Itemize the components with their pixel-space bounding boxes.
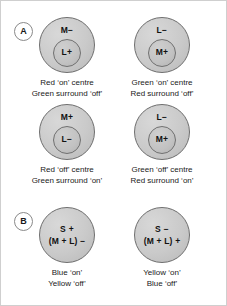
field-region-b2	[134, 207, 190, 263]
bottom-label-b2: (M + L) +	[114, 236, 210, 246]
caption-a2: Green ‘on’ centre Red surround ‘off’	[114, 78, 210, 99]
receptive-field-diagram-a3: M+ L−	[19, 104, 115, 162]
caption-line-1: Yellow ‘on’	[114, 268, 210, 279]
caption-line-1: Red ‘off’ centre	[19, 165, 115, 176]
receptive-field-cell-a3: M+ L− Red ‘off’ centre Green surround ‘o…	[19, 104, 115, 186]
caption-line-2: Red surround ‘on’	[114, 176, 210, 187]
receptive-field-cell-b2: S − (M + L) + Yellow ‘on’ Blue ‘off’	[114, 207, 210, 289]
receptive-field-diagram-a2: L− M+	[114, 17, 210, 75]
caption-line-1: Green ‘off’ centre	[114, 165, 210, 176]
receptive-field-diagram-a1: M− L+	[19, 17, 115, 75]
caption-line-1: Blue ‘on’	[19, 268, 115, 279]
receptive-field-cell-a4: L− M+ Green ‘off’ centre Red surround ‘o…	[114, 104, 210, 186]
centre-label-a3: L−	[19, 134, 115, 144]
surround-label-a3: M+	[19, 112, 115, 122]
centre-label-a2: M+	[114, 47, 210, 57]
top-label-b2: S −	[114, 224, 210, 234]
caption-line-2: Green surround ‘off’	[19, 89, 115, 100]
receptive-field-diagram-b2: S − (M + L) +	[114, 207, 210, 265]
receptive-field-cell-b1: S + (M + L) − Blue ‘on’ Yellow ‘off’	[19, 207, 115, 289]
caption-line-2: Green surround ‘on’	[19, 176, 115, 187]
surround-label-a2: L−	[114, 25, 210, 35]
centre-label-a1: L+	[19, 47, 115, 57]
caption-a3: Red ‘off’ centre Green surround ‘on’	[19, 165, 115, 186]
caption-b1: Blue ‘on’ Yellow ‘off’	[19, 268, 115, 289]
caption-b2: Yellow ‘on’ Blue ‘off’	[114, 268, 210, 289]
surround-label-a1: M−	[19, 25, 115, 35]
surround-label-a4: L−	[114, 112, 210, 122]
top-label-b1: S +	[19, 224, 115, 234]
figure-canvas: A M− L+ Red ‘on’ centre Green surround ‘…	[0, 0, 227, 306]
caption-line-1: Red ‘on’ centre	[19, 78, 115, 89]
receptive-field-diagram-a4: L− M+	[114, 104, 210, 162]
caption-line-2: Yellow ‘off’	[19, 279, 115, 290]
caption-line-2: Blue ‘off’	[114, 279, 210, 290]
receptive-field-diagram-b1: S + (M + L) −	[19, 207, 115, 265]
centre-label-a4: M+	[114, 134, 210, 144]
caption-line-2: Red surround ‘off’	[114, 89, 210, 100]
caption-a4: Green ‘off’ centre Red surround ‘on’	[114, 165, 210, 186]
caption-a1: Red ‘on’ centre Green surround ‘off’	[19, 78, 115, 99]
bottom-label-b1: (M + L) −	[19, 236, 115, 246]
receptive-field-cell-a1: M− L+ Red ‘on’ centre Green surround ‘of…	[19, 17, 115, 99]
receptive-field-cell-a2: L− M+ Green ‘on’ centre Red surround ‘of…	[114, 17, 210, 99]
caption-line-1: Green ‘on’ centre	[114, 78, 210, 89]
field-region-b1	[39, 207, 95, 263]
